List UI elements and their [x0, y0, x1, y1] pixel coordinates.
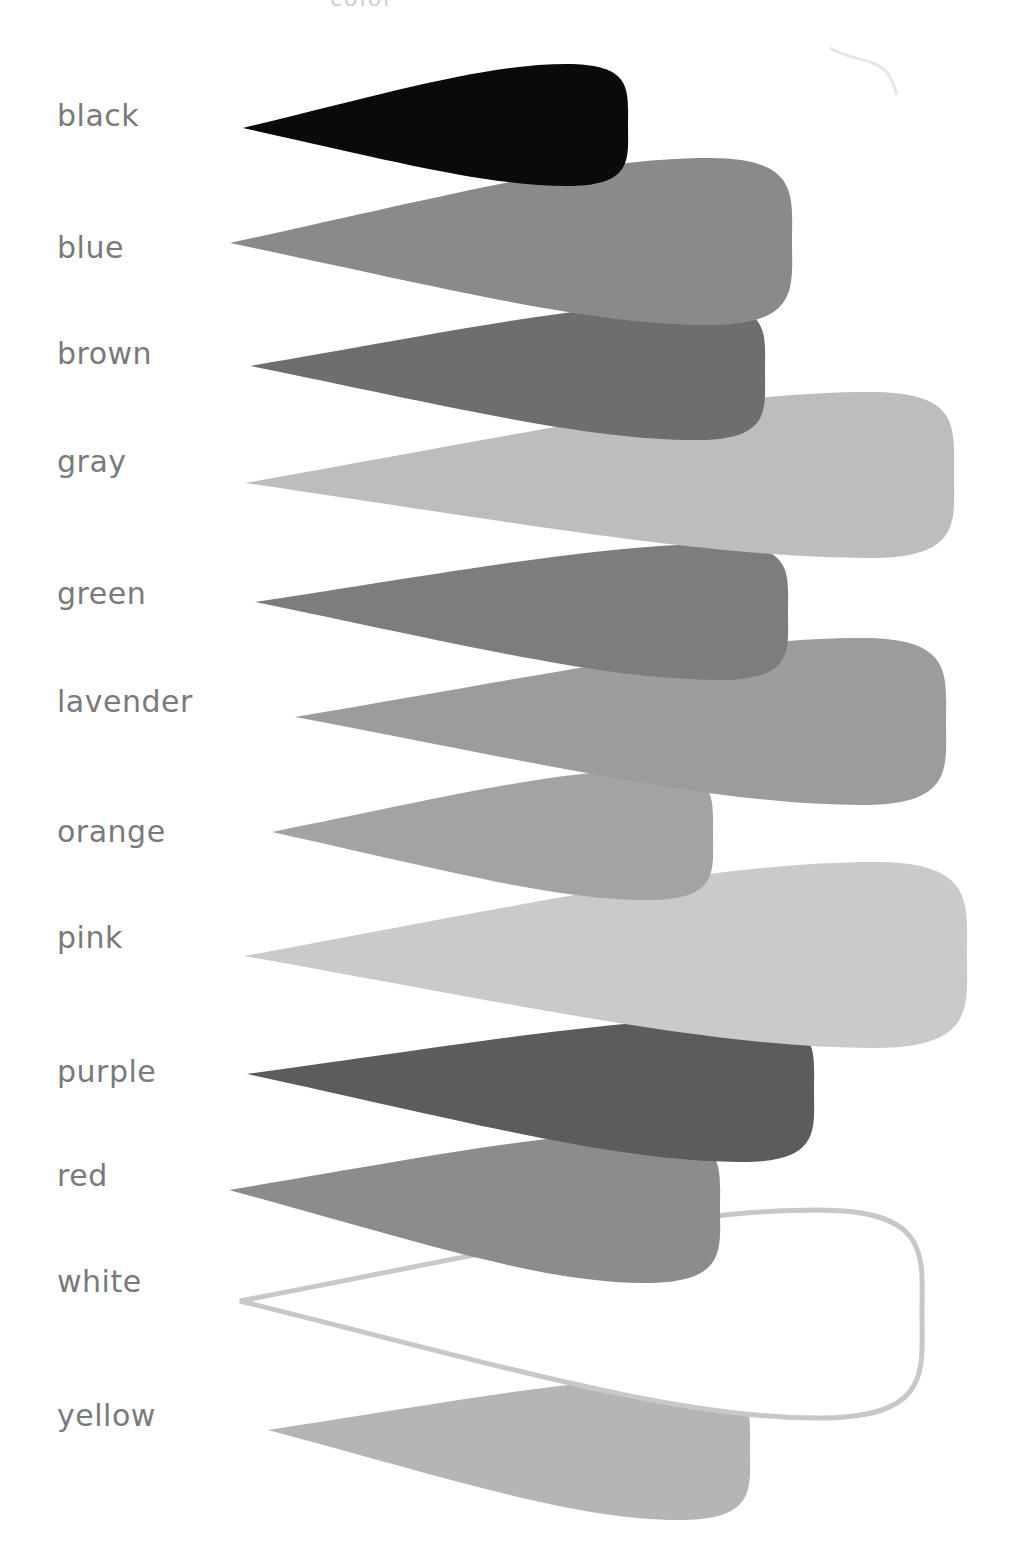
teardrop-swatch-orange: [272, 770, 713, 900]
teardrop-swatch-purple: [247, 1018, 814, 1162]
teardrop-swatch-blue: [230, 158, 792, 325]
teardrop-swatch-green: [255, 544, 788, 680]
teardrop-swatch-stack: [0, 0, 1013, 1564]
teardrop-swatch-black: [243, 64, 628, 186]
paper-scratch-mark: [830, 48, 897, 95]
